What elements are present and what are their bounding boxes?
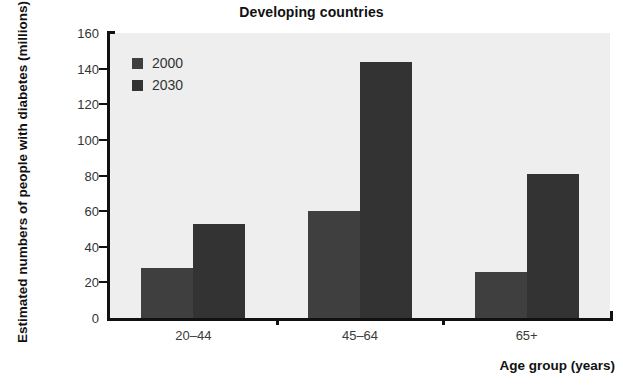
- y-axis-tick-label: 120: [63, 97, 99, 112]
- legend-swatch-icon: [132, 80, 143, 91]
- bar-2030-45–64: [360, 62, 412, 319]
- y-axis-tick: [99, 175, 108, 177]
- plot-area: [110, 33, 610, 318]
- x-axis-line: [107, 318, 613, 321]
- x-axis-category-label: 20–44: [175, 328, 211, 343]
- bar-2030-65+: [527, 174, 579, 318]
- y-axis-tick-label: 20: [63, 275, 99, 290]
- y-axis-tick-label: 0: [63, 311, 99, 326]
- y-axis-tick-label: 40: [63, 239, 99, 254]
- y-axis-tick: [99, 139, 108, 141]
- x-axis-right-cap: [610, 311, 613, 321]
- y-axis-tick: [99, 246, 108, 248]
- bar-2000-65+: [475, 272, 527, 318]
- chart-figure: Developing countries Estimated numbers o…: [0, 0, 623, 390]
- x-axis-category-label: 65+: [516, 328, 538, 343]
- y-axis-tick-label: 160: [63, 26, 99, 41]
- legend-swatch-icon: [132, 58, 143, 69]
- y-axis-tick: [99, 210, 108, 212]
- x-axis-category-label: 45–64: [342, 328, 378, 343]
- chart-legend: 20002030: [132, 52, 183, 96]
- y-axis-title: Estimated numbers of people with diabete…: [14, 1, 31, 343]
- bar-2000-45–64: [308, 211, 360, 318]
- x-axis-tick: [276, 319, 279, 325]
- y-axis-tick-label: 140: [63, 61, 99, 76]
- legend-label: 2030: [152, 78, 183, 92]
- legend-label: 2000: [152, 56, 183, 70]
- x-axis-tick: [442, 319, 445, 325]
- y-axis-tick-label: 80: [63, 168, 99, 183]
- y-axis-title-wrapper: Estimated numbers of people with diabete…: [2, 26, 42, 318]
- y-axis-tick: [99, 281, 108, 283]
- legend-item-2000: 2000: [132, 52, 183, 74]
- y-axis-tick: [99, 68, 108, 70]
- y-axis-tick: [99, 103, 108, 105]
- y-axis-tick-labels: 020406080100120140160: [55, 0, 99, 390]
- legend-item-2030: 2030: [132, 74, 183, 96]
- bar-2030-20–44: [193, 224, 245, 318]
- y-axis-tick-label: 60: [63, 204, 99, 219]
- x-axis-title: Age group (years): [499, 358, 615, 373]
- y-axis-tick-label: 100: [63, 132, 99, 147]
- y-axis-top-cap: [107, 31, 115, 34]
- bar-2000-20–44: [141, 268, 193, 318]
